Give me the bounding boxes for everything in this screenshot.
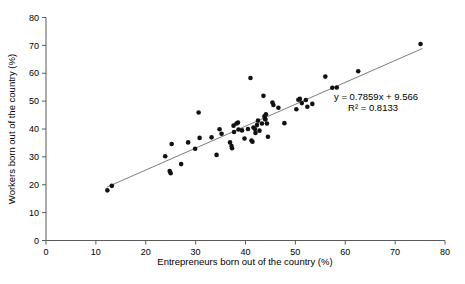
data-point	[271, 103, 276, 108]
data-point	[418, 42, 423, 47]
data-point	[169, 142, 174, 147]
data-point	[232, 130, 237, 135]
data-point	[256, 118, 261, 123]
data-point	[257, 128, 262, 133]
data-point	[186, 140, 191, 145]
data-point	[105, 188, 110, 193]
x-tick-label: 50	[290, 247, 300, 257]
y-tick-label: 50	[29, 96, 39, 106]
data-point	[294, 107, 299, 112]
data-point	[197, 136, 202, 141]
data-point	[300, 101, 305, 106]
data-point	[246, 127, 251, 132]
x-tick-label: 80	[440, 247, 450, 257]
data-point	[305, 104, 310, 109]
data-point	[334, 85, 339, 90]
data-point	[255, 123, 260, 128]
data-point	[264, 112, 269, 117]
data-point	[282, 121, 287, 126]
data-point	[163, 154, 168, 159]
data-point	[310, 102, 315, 107]
data-point	[253, 127, 258, 132]
data-point	[110, 184, 115, 189]
y-axis-title: Workers born out of the country (%)	[6, 54, 17, 204]
y-axis-tick-labels: 01020304050607080	[29, 13, 39, 246]
chart-canvas: 01020304050607080 01020304050607080 y = …	[0, 0, 465, 284]
y-tick-label: 40	[29, 124, 39, 134]
data-point	[217, 127, 222, 132]
data-point	[179, 162, 184, 167]
regression-equation-label: y = 0.7859x + 9.566	[334, 91, 418, 102]
x-tick-label: 10	[91, 247, 101, 257]
x-tick-label: 60	[340, 247, 350, 257]
x-axis-title: Entrepreneurs born out of the country (%…	[157, 256, 332, 267]
y-tick-label: 80	[29, 13, 39, 23]
y-tick-label: 70	[29, 41, 39, 51]
data-point	[168, 171, 173, 176]
data-point	[214, 153, 219, 158]
y-tick-label: 60	[29, 68, 39, 78]
x-axis-tick-labels: 01020304050607080	[43, 247, 450, 257]
data-point	[265, 121, 270, 126]
y-axis-ticks	[42, 18, 46, 241]
data-point	[253, 131, 258, 136]
y-tick-label: 20	[29, 180, 39, 190]
data-point	[248, 76, 253, 81]
data-point	[266, 135, 271, 140]
data-point	[323, 74, 328, 79]
data-point	[193, 146, 198, 151]
data-point	[304, 98, 309, 103]
data-point	[356, 69, 361, 74]
data-point	[260, 121, 265, 126]
axes	[46, 18, 445, 241]
data-point	[240, 128, 245, 133]
x-tick-label: 40	[240, 247, 250, 257]
y-tick-label: 10	[29, 208, 39, 218]
data-point	[196, 110, 201, 115]
data-point	[298, 97, 303, 102]
data-point	[236, 120, 241, 125]
scatter-chart-figure: 01020304050607080 01020304050607080 y = …	[0, 0, 465, 284]
data-point	[209, 135, 214, 140]
y-tick-label: 30	[29, 152, 39, 162]
data-points-group	[105, 42, 423, 193]
data-point	[219, 131, 224, 136]
data-point	[230, 146, 235, 151]
data-point	[330, 85, 335, 90]
x-tick-label: 30	[191, 247, 201, 257]
data-point	[242, 136, 247, 141]
x-tick-label: 0	[43, 247, 48, 257]
x-axis-ticks	[46, 241, 445, 245]
r-squared-label: R² = 0.8133	[348, 102, 398, 113]
y-tick-label: 0	[34, 236, 39, 246]
data-point	[261, 94, 266, 99]
data-point	[276, 106, 281, 111]
x-tick-label: 20	[141, 247, 151, 257]
data-point	[250, 140, 255, 145]
x-tick-label: 70	[390, 247, 400, 257]
